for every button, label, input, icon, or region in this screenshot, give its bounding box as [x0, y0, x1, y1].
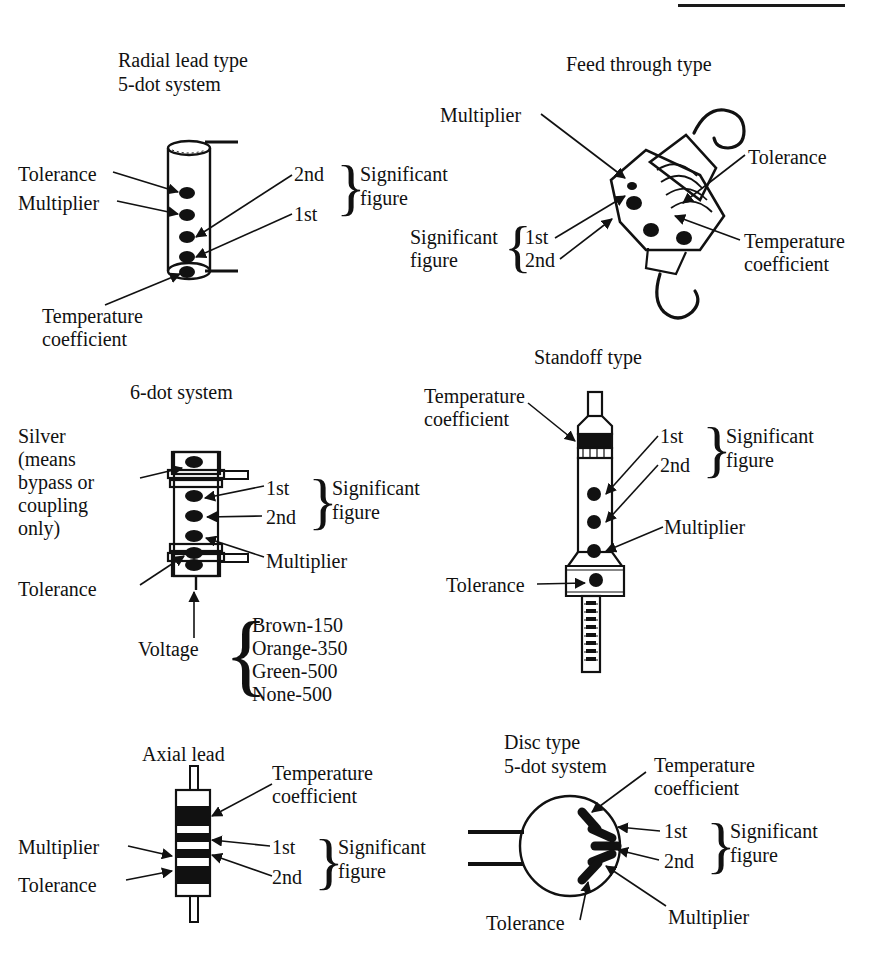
label-6d-silver2: (means	[18, 448, 76, 471]
heading-disc-type-line2: 5-dot system	[504, 755, 607, 777]
label-6d-tolerance: Tolerance	[18, 578, 97, 601]
leader-6d-multiplier	[206, 538, 264, 557]
label-6d-2nd: 2nd	[266, 506, 296, 529]
heading-disc-type-sub: 5-dot system	[504, 754, 607, 778]
label-ft-tempcoeff-line1: Temperature	[744, 230, 845, 252]
figure-page: Radial lead type 5-dot system Tolerance …	[0, 0, 885, 964]
label-ax-figure: figure	[338, 860, 386, 883]
heading-axial-lead-line1: Axial lead	[142, 743, 225, 765]
label-dc-multiplier-text: Multiplier	[668, 906, 749, 928]
label-so-tempcoeff: Temperature	[424, 385, 525, 408]
label-radial-tempcoeff-line1: Temperature	[42, 305, 143, 327]
leader-so-multiplier	[606, 527, 663, 551]
label-radial-multiplier: Multiplier	[18, 192, 99, 215]
label-ax-multiplier: Multiplier	[18, 836, 99, 859]
label-ft-tempcoeff: Temperature	[744, 230, 845, 253]
label-ax-tempcoeff-line2: coefficient	[272, 785, 357, 807]
label-dc-1st-text: 1st	[664, 820, 687, 842]
label-ft-multiplier: Multiplier	[440, 104, 521, 127]
label-ft-figure: figure	[410, 249, 458, 272]
leader-6d-tolerance	[140, 556, 184, 585]
leader-ax-2nd	[212, 855, 272, 876]
voltage-code-1: Orange-350	[252, 637, 348, 659]
label-ft-multiplier-text: Multiplier	[440, 104, 521, 126]
leader-dc-1st	[618, 827, 660, 831]
label-6d-silver3: bypass or	[18, 471, 94, 494]
heading-axial-lead: Axial lead	[142, 742, 225, 766]
label-6d-silver-line2: (means	[18, 448, 76, 470]
label-ax-tolerance: Tolerance	[18, 874, 97, 897]
label-6d-silver1: Silver	[18, 425, 66, 448]
label-radial-tempcoeff2: coefficient	[42, 328, 127, 351]
label-6d-significant-line1: Significant	[332, 477, 420, 499]
label-ax-2nd-text: 2nd	[272, 866, 302, 888]
leader-dc-tempcoeff	[592, 772, 646, 812]
label-dc-tolerance: Tolerance	[486, 912, 565, 935]
heading-disc-type-line1: Disc type	[504, 731, 580, 753]
label-ft-1st: 1st	[525, 226, 548, 249]
label-ax-significant-line1: Significant	[338, 836, 426, 858]
label-dc-2nd: 2nd	[664, 850, 694, 873]
label-so-multiplier-text: Multiplier	[664, 516, 745, 538]
label-radial-tolerance: Tolerance	[18, 163, 97, 186]
label-ft-significant-line1: Significant	[410, 226, 498, 248]
label-ft-significant-line2: figure	[410, 249, 458, 271]
label-dc-significant: Significant	[730, 820, 818, 843]
label-ft-2nd-text: 2nd	[525, 249, 555, 271]
voltage-code-3: None-500	[252, 683, 332, 705]
label-dc-tempcoeff-line1: Temperature	[654, 754, 755, 776]
leader-ax-multiplier	[128, 846, 172, 856]
label-6d-silver-line3: bypass or	[18, 471, 94, 493]
label-6d-voltage-none: None-500	[252, 683, 332, 706]
label-so-2nd: 2nd	[660, 454, 690, 477]
heading-radial-lead: Radial lead type	[118, 48, 248, 72]
label-so-significant-line2: figure	[726, 449, 774, 471]
label-6d-significant-line2: figure	[332, 501, 380, 523]
label-6d-significant: Significant	[332, 477, 420, 500]
axial-lead-body	[176, 766, 210, 922]
label-ax-tolerance-text: Tolerance	[18, 874, 97, 896]
standoff-dots	[587, 487, 603, 587]
radial-lead-body	[168, 141, 238, 279]
heading-six-dot: 6-dot system	[130, 380, 233, 404]
disc-bars	[582, 812, 617, 880]
leader-6d-silver	[140, 468, 182, 478]
axial-lead-bands	[177, 806, 209, 884]
label-ft-tolerance: Tolerance	[748, 146, 827, 169]
label-radial-tempcoeff-line2: coefficient	[42, 328, 127, 350]
leader-dc-tolerance	[580, 882, 588, 920]
label-so-tempcoeff-line1: Temperature	[424, 385, 525, 407]
label-6d-1st-text: 1st	[266, 477, 289, 499]
leader-2nd	[196, 175, 292, 237]
label-6d-1st: 1st	[266, 477, 289, 500]
label-so-1st-text: 1st	[660, 425, 683, 447]
heading-six-dot-line1: 6-dot system	[130, 381, 233, 403]
label-so-tempcoeff-line2: coefficient	[424, 408, 509, 430]
voltage-code-0: Brown-150	[252, 614, 343, 636]
label-so-significant-line1: Significant	[726, 425, 814, 447]
label-6d-multiplier: Multiplier	[266, 550, 347, 573]
label-ax-1st: 1st	[272, 836, 295, 859]
label-6d-voltage: Voltage	[138, 638, 199, 661]
leader-ax-1st	[212, 840, 270, 846]
label-so-tolerance: Tolerance	[446, 574, 525, 597]
leader-so-tempcoeff	[528, 403, 575, 441]
label-ax-significant-line2: figure	[338, 860, 386, 882]
label-ax-tempcoeff: Temperature	[272, 762, 373, 785]
feed-through-body	[611, 110, 744, 318]
label-6d-silver-line5: only)	[18, 517, 60, 539]
leader-ft-tolerance	[683, 155, 745, 203]
top-horizontal-rule	[678, 4, 845, 7]
leader-ax-tolerance	[126, 871, 172, 880]
label-6d-2nd-text: 2nd	[266, 506, 296, 528]
label-ax-2nd: 2nd	[272, 866, 302, 889]
label-dc-figure: figure	[730, 844, 778, 867]
leader-multiplier	[117, 201, 178, 214]
label-dc-1st: 1st	[664, 820, 687, 843]
label-ft-tempcoeff2: coefficient	[744, 253, 829, 276]
label-dc-multiplier: Multiplier	[668, 906, 749, 929]
voltage-code-2: Green-500	[252, 660, 338, 682]
disc-body	[468, 796, 620, 896]
label-radial-significant: Significant	[360, 163, 448, 186]
label-ft-2nd: 2nd	[525, 249, 555, 272]
